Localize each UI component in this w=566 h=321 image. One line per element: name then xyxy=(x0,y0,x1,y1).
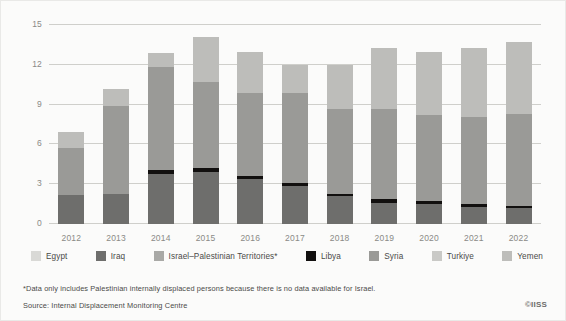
legend-item[interactable]: Yemen xyxy=(502,251,543,261)
bar-segment[interactable] xyxy=(148,67,174,169)
bar-segment[interactable] xyxy=(416,115,442,201)
x-axis-label-2017: 2017 xyxy=(285,233,305,243)
bar-segment[interactable] xyxy=(193,82,219,168)
source-note: Source: Internal Displacement Monitoring… xyxy=(23,301,188,310)
x-axis-label-2018: 2018 xyxy=(330,233,350,243)
bar-segment[interactable] xyxy=(58,132,84,147)
legend-label: Syria xyxy=(384,252,403,261)
x-axis-label-2019: 2019 xyxy=(375,233,395,243)
legend-item[interactable]: Libya xyxy=(306,251,341,261)
bar-segment[interactable] xyxy=(461,48,487,117)
x-axis-label-2013: 2013 xyxy=(106,233,126,243)
bar-segment[interactable] xyxy=(193,172,219,224)
chart-legend: EgyptIraqIsrael–Palestinian Territories*… xyxy=(31,251,543,261)
bar-segment[interactable] xyxy=(371,48,397,109)
bar-column[interactable]: 2016 xyxy=(237,25,263,224)
legend-label: Egypt xyxy=(46,252,67,261)
bar-segment[interactable] xyxy=(103,106,129,194)
bar-segment[interactable] xyxy=(237,93,263,177)
y-axis-tick-6: 6 xyxy=(37,138,42,148)
bar-column[interactable]: 2019 xyxy=(371,25,397,224)
legend-swatch-icon xyxy=(96,251,106,261)
bar-column[interactable]: 2012 xyxy=(58,25,84,224)
legend-label: Israel–Palestinian Territories* xyxy=(169,252,278,261)
bar-segment[interactable] xyxy=(193,37,219,82)
bar-column[interactable]: 2015 xyxy=(193,25,219,224)
bar-column[interactable]: 2013 xyxy=(103,25,129,224)
bar-segment[interactable] xyxy=(416,204,442,224)
bar-segment[interactable] xyxy=(506,114,532,206)
bar-segment[interactable] xyxy=(416,52,442,116)
chart-page: 03691215 2012201320142015201620172018201… xyxy=(0,0,566,321)
bar-group: 2012201320142015201620172018201920202021… xyxy=(49,25,541,224)
bar-column[interactable]: 2018 xyxy=(327,25,353,224)
legend-swatch-icon xyxy=(432,251,442,261)
bar-segment[interactable] xyxy=(282,93,308,183)
bar-segment[interactable] xyxy=(327,196,353,224)
bar-segment[interactable] xyxy=(506,42,532,114)
legend-item[interactable]: Israel–Palestinian Territories* xyxy=(154,251,278,261)
bar-segment[interactable] xyxy=(461,117,487,205)
plot-area: 03691215 2012201320142015201620172018201… xyxy=(49,25,541,224)
legend-item[interactable]: Syria xyxy=(369,251,403,261)
x-axis-label-2022: 2022 xyxy=(509,233,529,243)
bar-segment[interactable] xyxy=(327,109,353,194)
bar-segment[interactable] xyxy=(237,179,263,224)
x-axis-label-2021: 2021 xyxy=(464,233,484,243)
y-axis-tick-15: 15 xyxy=(32,19,42,29)
bar-segment[interactable] xyxy=(371,203,397,224)
bar-column[interactable]: 2017 xyxy=(282,25,308,224)
legend-swatch-icon xyxy=(306,251,316,261)
bar-segment[interactable] xyxy=(58,148,84,195)
legend-swatch-icon xyxy=(154,251,164,261)
bar-column[interactable]: 2021 xyxy=(461,25,487,224)
bar-column[interactable]: 2014 xyxy=(148,25,174,224)
footnote: *Data only includes Palestinian internal… xyxy=(23,284,376,293)
x-axis-label-2012: 2012 xyxy=(62,233,82,243)
bar-segment[interactable] xyxy=(371,109,397,199)
bar-segment[interactable] xyxy=(282,65,308,93)
y-axis-tick-3: 3 xyxy=(37,178,42,188)
legend-item[interactable]: Turkiye xyxy=(432,251,474,261)
x-axis-label-2016: 2016 xyxy=(240,233,260,243)
bar-segment[interactable] xyxy=(148,174,174,224)
y-axis-tick-0: 0 xyxy=(37,218,42,228)
x-axis-label-2015: 2015 xyxy=(196,233,216,243)
legend-item[interactable]: Iraq xyxy=(96,251,126,261)
bar-segment[interactable] xyxy=(282,186,308,224)
legend-label: Libya xyxy=(321,252,341,261)
bar-column[interactable]: 2022 xyxy=(506,25,532,224)
legend-swatch-icon xyxy=(31,251,41,261)
bar-segment[interactable] xyxy=(103,194,129,225)
bar-segment[interactable] xyxy=(237,52,263,93)
bar-column[interactable]: 2020 xyxy=(416,25,442,224)
y-axis-tick-9: 9 xyxy=(37,99,42,109)
legend-swatch-icon xyxy=(502,251,512,261)
bar-segment[interactable] xyxy=(58,195,84,224)
legend-item[interactable]: Egypt xyxy=(31,251,67,261)
y-axis-tick-12: 12 xyxy=(32,59,42,69)
bar-segment[interactable] xyxy=(103,89,129,106)
bar-segment[interactable] xyxy=(506,208,532,224)
legend-label: Turkiye xyxy=(447,252,474,261)
x-axis-label-2020: 2020 xyxy=(419,233,439,243)
legend-swatch-icon xyxy=(369,251,379,261)
x-axis-label-2014: 2014 xyxy=(151,233,171,243)
legend-label: Iraq xyxy=(111,252,126,261)
bar-segment[interactable] xyxy=(327,65,353,109)
bar-segment[interactable] xyxy=(461,207,487,224)
iiss-logo: ©IISS xyxy=(525,300,547,309)
legend-label: Yemen xyxy=(517,252,543,261)
bar-segment[interactable] xyxy=(148,53,174,68)
